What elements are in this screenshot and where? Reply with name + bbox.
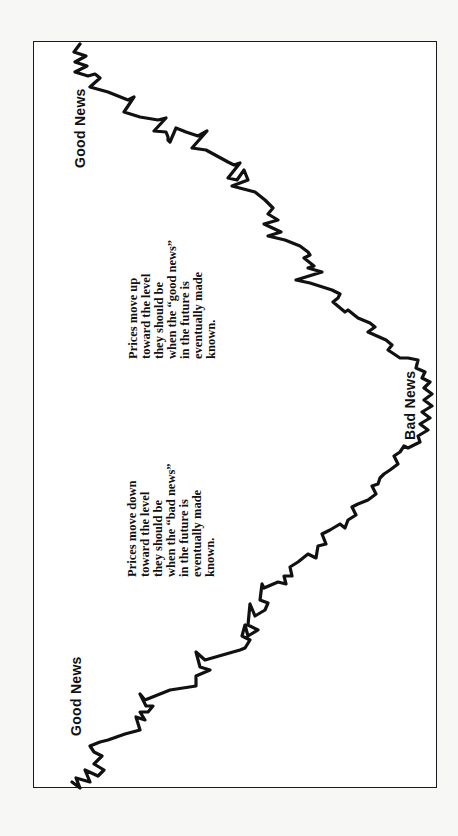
price-path-line: [72, 44, 432, 788]
note-up-line: known.: [205, 240, 218, 359]
label-bad-news: Bad News: [402, 371, 418, 440]
note-prices-move-down: Prices move down toward the level they s…: [126, 463, 217, 577]
note-down-line: known.: [204, 463, 217, 577]
label-good-news-end: Good News: [68, 656, 84, 736]
note-prices-move-up: Prices move up toward the level they sho…: [127, 240, 218, 359]
label-good-news-start: Good News: [72, 88, 88, 168]
